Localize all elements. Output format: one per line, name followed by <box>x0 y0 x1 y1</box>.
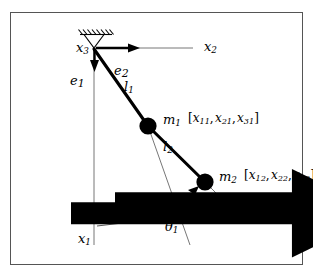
label-mass2-coordinates: [x12, x22, x32] <box>244 169 313 182</box>
label-m1: m1 <box>163 113 181 128</box>
label-theta2: θ2 <box>189 198 202 213</box>
coord-x22: x22 <box>271 168 288 182</box>
label-l1: l1 <box>124 80 134 95</box>
label-e2-basis-vector: e2 <box>114 56 129 80</box>
coord-x31: x31 <box>237 111 254 125</box>
label-theta1: θ1 <box>165 220 178 235</box>
double-pendulum-diagram: x3 x2 x1 e1 e2 l1 <box>0 0 313 276</box>
label-m2: m2 <box>219 170 237 185</box>
coord-x12: x12 <box>249 168 266 182</box>
label-mass1-coordinates: [x11, x21, x31] <box>188 112 259 125</box>
label-l2: l2 <box>163 140 173 155</box>
e2-basis-vector-arrow <box>96 43 140 52</box>
coord-x21: x21 <box>215 111 232 125</box>
ceiling-hatch-icon <box>79 30 114 35</box>
label-e1-basis-vector: e1 <box>70 66 85 90</box>
label-x3: x3 <box>76 41 89 56</box>
coord-x11: x11 <box>193 111 210 125</box>
label-x2: x2 <box>204 40 217 55</box>
coord-x32: x32 <box>293 168 310 182</box>
